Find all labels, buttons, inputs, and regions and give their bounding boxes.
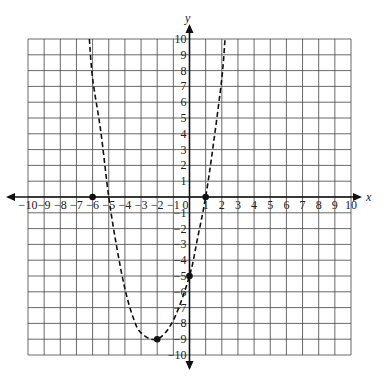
x-tick-label: 3 <box>235 198 241 212</box>
y-tick-label: 6 <box>181 95 187 109</box>
y-tick-label: 1 <box>181 174 187 188</box>
x-tick-label: 2 <box>219 198 225 212</box>
y-tick-label: 10 <box>175 32 187 46</box>
x-tick-label: 5 <box>267 198 273 212</box>
y-tick-label: 9 <box>181 48 187 62</box>
y-tick-label: −2 <box>174 222 187 236</box>
y-tick-label: −4 <box>174 253 187 267</box>
marked-point <box>89 194 96 201</box>
y-tick-label: −5 <box>174 269 187 283</box>
y-axis-label: y <box>184 11 191 25</box>
x-tick-label: 8 <box>316 198 322 212</box>
marked-points <box>89 194 209 343</box>
marked-point <box>186 273 193 280</box>
coordinate-plane: −10−9−8−7−6−5−4−3−2−10123456789101098765… <box>0 0 388 382</box>
x-axis-arrow-left-icon <box>6 193 15 201</box>
y-tick-label: 7 <box>181 79 187 93</box>
x-tick-label: 7 <box>300 198 306 212</box>
x-tick-label: −7 <box>70 198 83 212</box>
y-tick-label: −10 <box>168 348 187 362</box>
x-tick-label: −10 <box>19 198 38 212</box>
x-tick-label: 6 <box>283 198 289 212</box>
x-tick-label: 10 <box>345 198 357 212</box>
y-axis-arrow-up-icon <box>186 24 194 33</box>
marked-point <box>154 336 161 343</box>
x-tick-label: −2 <box>151 198 164 212</box>
y-tick-label: −3 <box>174 237 187 251</box>
x-tick-label: 9 <box>332 198 338 212</box>
x-tick-label: −9 <box>38 198 51 212</box>
y-axis-arrow-down-icon <box>186 361 194 370</box>
y-tick-label: 5 <box>181 111 187 125</box>
x-tick-label: −3 <box>135 198 148 212</box>
x-tick-label: −8 <box>54 198 67 212</box>
x-tick-label: −4 <box>119 198 132 212</box>
x-axis-label: x <box>365 190 372 204</box>
y-tick-label: −9 <box>174 332 187 346</box>
y-tick-label: 2 <box>181 158 187 172</box>
marked-point <box>202 194 209 201</box>
x-tick-label: 4 <box>251 198 257 212</box>
y-tick-label: −1 <box>174 206 187 220</box>
y-tick-label: 3 <box>181 143 187 157</box>
y-tick-label: −6 <box>174 285 187 299</box>
y-tick-label: −8 <box>174 316 187 330</box>
y-tick-label: 8 <box>181 64 187 78</box>
y-tick-label: 4 <box>181 127 187 141</box>
